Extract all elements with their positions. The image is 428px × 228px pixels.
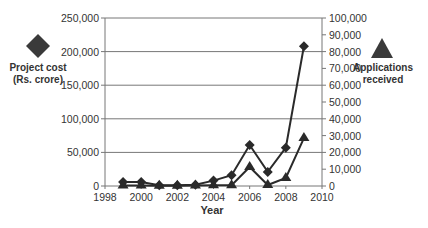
right-tick-label: 80,000 bbox=[329, 46, 361, 58]
x-tick-label: 2006 bbox=[238, 191, 262, 203]
x-tick-label: 2010 bbox=[310, 191, 334, 203]
triangle-marker bbox=[298, 132, 309, 141]
right-tick-label: 20,000 bbox=[329, 146, 361, 158]
right-tick-label: 50,000 bbox=[329, 96, 361, 108]
legend-applications-line2: received bbox=[348, 74, 418, 86]
project-cost-line bbox=[123, 46, 304, 185]
left-tick-label: 50,000 bbox=[67, 146, 99, 158]
legend-project-cost-line2: (Rs. crore) bbox=[4, 74, 72, 86]
x-tick-label: 2004 bbox=[202, 191, 226, 203]
right-tick-label: 90,000 bbox=[329, 29, 361, 41]
x-tick-label: 2002 bbox=[166, 191, 190, 203]
right-tick-label: 30,000 bbox=[329, 130, 361, 142]
right-tick-label: 10,000 bbox=[329, 163, 361, 175]
triangle-marker bbox=[244, 161, 255, 170]
right-tick-label: 100,000 bbox=[329, 12, 367, 24]
legend-applications-line1: Applications bbox=[348, 62, 418, 74]
legend-applications: Applications received bbox=[348, 62, 418, 86]
x-axis-title: Year bbox=[200, 204, 224, 216]
triangle-icon bbox=[371, 38, 393, 58]
diamond-marker bbox=[299, 41, 309, 51]
axes bbox=[105, 18, 322, 186]
right-tick-label: 40,000 bbox=[329, 113, 361, 125]
data-series bbox=[118, 41, 310, 190]
x-axis-ticks: 1998200020022004200620082010 bbox=[93, 186, 334, 203]
right-axis-ticks: 010,00020,00030,00040,00050,00060,00070,… bbox=[322, 12, 367, 192]
triangle-marker bbox=[172, 180, 183, 189]
x-tick-label: 2000 bbox=[129, 191, 153, 203]
left-axis-ticks: 050,000100,000150,000200,000250,000 bbox=[61, 12, 105, 192]
x-tick-label: 1998 bbox=[93, 191, 117, 203]
legend-project-cost-line1: Project cost bbox=[4, 62, 72, 74]
left-tick-label: 250,000 bbox=[61, 12, 99, 24]
x-tick-label: 2008 bbox=[274, 191, 298, 203]
diamond-icon bbox=[26, 34, 50, 58]
diamond-marker bbox=[227, 170, 237, 180]
chart: 050,000100,000150,000200,000250,000 010,… bbox=[0, 0, 428, 228]
left-tick-label: 100,000 bbox=[61, 113, 99, 125]
legend-project-cost: Project cost (Rs. crore) bbox=[4, 62, 72, 86]
left-tick-label: 200,000 bbox=[61, 46, 99, 58]
triangle-marker bbox=[280, 172, 291, 181]
